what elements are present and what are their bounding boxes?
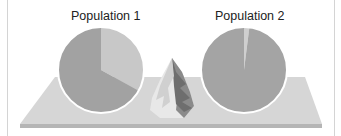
platform-edge xyxy=(20,124,322,128)
mountain-icon xyxy=(150,58,194,118)
population-2-pie xyxy=(201,27,287,113)
population-1-pie xyxy=(58,27,144,113)
diagram-stage xyxy=(0,0,341,136)
